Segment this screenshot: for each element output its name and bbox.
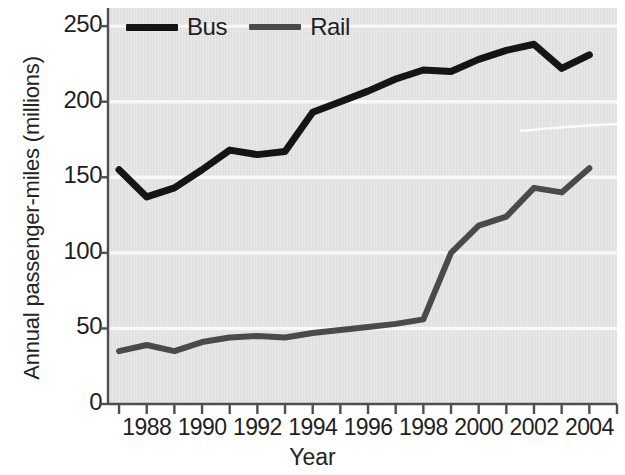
chart-legend: Bus Rail — [126, 13, 350, 41]
legend-swatch-bus — [126, 24, 178, 31]
legend-label-bus: Bus — [187, 13, 227, 41]
line-chart: Annual passenger-miles (millions) 050100… — [0, 0, 625, 475]
legend-item-bus: Bus — [126, 13, 227, 41]
x-axis-tick-label: 2004 — [554, 414, 624, 441]
plot-texture — [108, 8, 617, 404]
x-axis-title: Year — [0, 444, 625, 471]
plot-area — [0, 0, 625, 475]
legend-swatch-rail — [249, 24, 301, 30]
legend-item-rail: Rail — [249, 13, 350, 41]
legend-label-rail: Rail — [310, 13, 350, 41]
